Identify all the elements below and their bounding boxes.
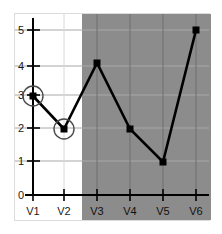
y-tick-label-4: 4 bbox=[18, 60, 24, 72]
data-point-V5[interactable] bbox=[160, 159, 167, 166]
data-point-V3[interactable] bbox=[94, 60, 101, 67]
x-tick-label-V6: V6 bbox=[189, 205, 202, 217]
chart-container: 5 4 3 2 1 0 V1 V2 V3 V4 V5 V6 bbox=[0, 0, 222, 234]
y-axis-tick-labels: 5 4 3 2 1 0 bbox=[18, 24, 24, 201]
x-tick-label-V5: V5 bbox=[156, 205, 169, 217]
x-tick-label-V1: V1 bbox=[26, 205, 39, 217]
y-tick-label-2: 2 bbox=[18, 122, 24, 134]
chart-canvas: 5 4 3 2 1 0 V1 V2 V3 V4 V5 V6 bbox=[0, 0, 222, 234]
x-tick-label-V3: V3 bbox=[90, 205, 103, 217]
data-series-line bbox=[33, 30, 196, 162]
x-tick-label-V2: V2 bbox=[57, 205, 70, 217]
data-point-V1[interactable] bbox=[30, 93, 37, 100]
data-point-V2[interactable] bbox=[61, 126, 68, 133]
y-tick-label-0: 0 bbox=[18, 189, 24, 201]
x-tick-label-V4: V4 bbox=[123, 205, 136, 217]
y-tick-label-1: 1 bbox=[18, 155, 24, 167]
y-tick-label-5: 5 bbox=[18, 24, 24, 36]
data-point-V4[interactable] bbox=[127, 126, 134, 133]
x-axis-tick-labels: V1 V2 V3 V4 V5 V6 bbox=[26, 205, 202, 217]
data-point-V6[interactable] bbox=[193, 27, 200, 34]
